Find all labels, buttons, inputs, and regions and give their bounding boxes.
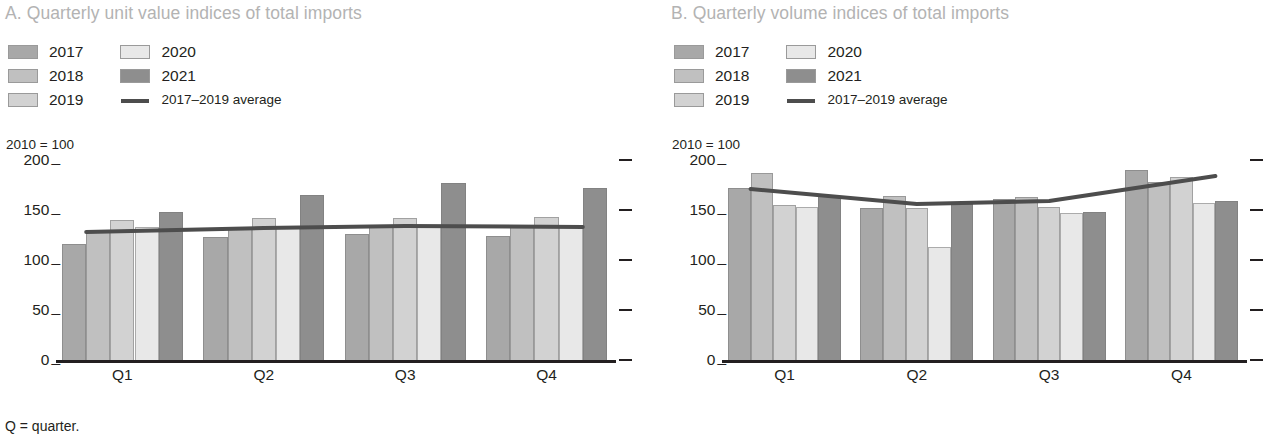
panel-a-y-axis: 050100150200 [6,160,60,360]
legend-label-2018: 2018 [49,68,83,84]
panel-b-plot: 050100150200 Q1Q2Q3Q4 [672,160,1262,380]
panel-b-axis-note: 2010 = 100 [672,137,740,152]
y-tick-label: 200 [6,151,60,169]
panel-a-plot: 050100150200 Q1Q2Q3Q4 [6,160,636,380]
legend-item-2020: 2020 [786,40,947,64]
legend-swatch-2019 [674,93,704,107]
legend-label-2017: 2017 [49,44,83,60]
legend-item-2017: 2017 [674,40,749,64]
legend-item-2019: 2019 [674,88,749,112]
legend-line-icon [120,93,150,107]
legend-item-2021: 2021 [120,64,281,88]
y-tick-label: 100 [672,251,726,269]
legend-swatch-2020 [786,45,816,59]
panel-a-x-axis: Q1Q2Q3Q4 [62,366,607,392]
x-tick-label: Q4 [536,366,557,384]
x-tick-label: Q1 [774,366,795,384]
y-tick-label: 0 [6,351,60,369]
legend-item-2018: 2018 [674,64,749,88]
legend-item-average: 2017–2019 average [120,88,281,112]
panel-b: B. Quarterly volume indices of total imp… [660,0,1274,444]
panel-b-x-axis: Q1Q2Q3Q4 [728,366,1238,392]
legend-item-2021: 2021 [786,64,947,88]
y-tick-mark [619,309,632,311]
panel-b-legend: 2017 2018 2019 2020 2021 [674,40,948,112]
panel-a-bars [62,160,607,360]
y-tick-label: 150 [672,201,726,219]
y-tick-label: 50 [672,301,726,319]
x-tick-label: Q4 [1171,366,1192,384]
legend-item-2018: 2018 [8,64,83,88]
y-tick-label: 50 [6,301,60,319]
legend-swatch-2019 [8,93,38,107]
panel-a-axis-note: 2010 = 100 [6,137,74,152]
x-tick-label: Q1 [112,366,133,384]
legend-label-2019: 2019 [49,92,83,108]
x-tick-label: Q2 [907,366,928,384]
y-tick-mark [1250,359,1263,361]
legend-label-2021: 2021 [161,68,195,84]
average-line [62,160,607,360]
y-tick-label: 200 [672,151,726,169]
legend-label-average: 2017–2019 average [161,93,281,107]
panel-b-baseline [722,360,1247,363]
legend-item-2020: 2020 [120,40,281,64]
panel-a-legend: 2017 2018 2019 2020 2021 [8,40,282,112]
legend-swatch-2017 [8,45,38,59]
panel-b-right-ticks [1250,160,1264,360]
x-tick-label: Q2 [253,366,274,384]
average-line [728,160,1238,360]
y-tick-mark [1250,209,1263,211]
y-tick-mark [1250,259,1263,261]
legend-swatch-2020 [120,45,150,59]
legend-item-average: 2017–2019 average [786,88,947,112]
legend-item-2017: 2017 [8,40,83,64]
legend-label-average: 2017–2019 average [827,93,947,107]
legend-item-2019: 2019 [8,88,83,112]
panel-a: A. Quarterly unit value indices of total… [0,0,660,444]
y-tick-mark [619,359,632,361]
y-tick-label: 150 [6,201,60,219]
legend-swatch-2018 [674,69,704,83]
legend-swatch-2021 [120,69,150,83]
chart-figure: A. Quarterly unit value indices of total… [0,0,1274,444]
legend-label-2017: 2017 [715,44,749,60]
legend-line-icon [786,93,816,107]
panel-b-y-axis: 050100150200 [672,160,726,360]
panel-b-bars [728,160,1238,360]
legend-swatch-2018 [8,69,38,83]
panel-b-title: B. Quarterly volume indices of total imp… [671,3,1009,24]
y-tick-label: 100 [6,251,60,269]
y-tick-mark [1250,159,1263,161]
legend-swatch-2021 [786,69,816,83]
legend-label-2020: 2020 [827,44,861,60]
y-tick-label: 0 [672,351,726,369]
panel-a-baseline [56,360,616,363]
x-tick-label: Q3 [1039,366,1060,384]
footnote: Q = quarter. [5,418,79,434]
y-tick-mark [619,159,632,161]
panel-a-right-ticks [619,160,633,360]
legend-label-2020: 2020 [161,44,195,60]
y-tick-mark [619,209,632,211]
legend-label-2021: 2021 [827,68,861,84]
x-tick-label: Q3 [395,366,416,384]
y-tick-mark [619,259,632,261]
legend-swatch-2017 [674,45,704,59]
legend-label-2019: 2019 [715,92,749,108]
y-tick-mark [1250,309,1263,311]
panel-a-title: A. Quarterly unit value indices of total… [5,3,362,24]
legend-label-2018: 2018 [715,68,749,84]
